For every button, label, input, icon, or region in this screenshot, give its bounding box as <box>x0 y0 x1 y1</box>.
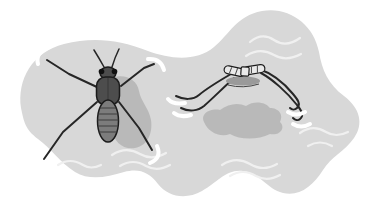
abdomen <box>98 100 119 142</box>
eye-right <box>112 69 118 75</box>
illustration-canvas <box>0 0 372 215</box>
body-underside-shade <box>226 77 260 86</box>
water-strider-illustration <box>0 0 372 215</box>
eye-left <box>99 69 105 75</box>
water-surface <box>20 10 359 196</box>
body-segment-center <box>241 67 250 77</box>
